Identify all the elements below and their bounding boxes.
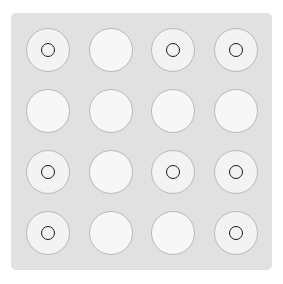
ring-icon: [41, 165, 55, 179]
ring-icon: [166, 43, 180, 57]
board-cell-r1-c1[interactable]: [26, 28, 70, 72]
game-board: [11, 13, 272, 270]
ring-icon: [229, 43, 243, 57]
board-cell-r4-c4[interactable]: [214, 211, 258, 255]
board-cell-r2-c3[interactable]: [151, 89, 195, 133]
game-stage: [0, 0, 283, 284]
board-cell-r4-c2[interactable]: [89, 211, 133, 255]
ring-icon: [41, 226, 55, 240]
board-cell-r1-c3[interactable]: [151, 28, 195, 72]
ring-icon: [229, 226, 243, 240]
board-cell-r4-c3[interactable]: [151, 211, 195, 255]
board-cell-r1-c4[interactable]: [214, 28, 258, 72]
board-cell-r3-c1[interactable]: [26, 150, 70, 194]
board-cell-r3-c2[interactable]: [89, 150, 133, 194]
board-cell-r2-c1[interactable]: [26, 89, 70, 133]
board-cell-r3-c4[interactable]: [214, 150, 258, 194]
board-cell-r3-c3[interactable]: [151, 150, 195, 194]
board-cell-r2-c2[interactable]: [89, 89, 133, 133]
ring-icon: [166, 165, 180, 179]
ring-icon: [229, 165, 243, 179]
ring-icon: [41, 43, 55, 57]
board-cell-r4-c1[interactable]: [26, 211, 70, 255]
board-cell-r2-c4[interactable]: [214, 89, 258, 133]
board-cell-r1-c2[interactable]: [89, 28, 133, 72]
